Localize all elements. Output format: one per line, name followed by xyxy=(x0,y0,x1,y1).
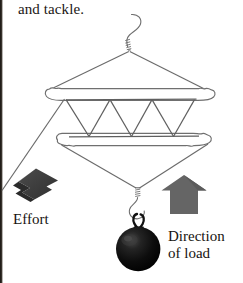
arrow-down-left-icon xyxy=(13,169,58,203)
arrow-up-icon xyxy=(162,175,207,214)
block-and-tackle-figure: and tackle. xyxy=(0,0,243,283)
upper-block-shell xyxy=(45,88,215,101)
load-label-line-2: of load xyxy=(168,245,225,262)
top-hook-icon xyxy=(126,14,141,49)
lower-block-shell xyxy=(57,133,212,146)
rope-falls xyxy=(66,99,199,137)
load-direction-label: Direction of load xyxy=(168,228,225,262)
load-ball-icon xyxy=(116,214,160,271)
load-label-line-1: Direction xyxy=(168,228,225,245)
upper-sling-rope xyxy=(48,50,207,91)
effort-label: Effort xyxy=(13,211,49,228)
